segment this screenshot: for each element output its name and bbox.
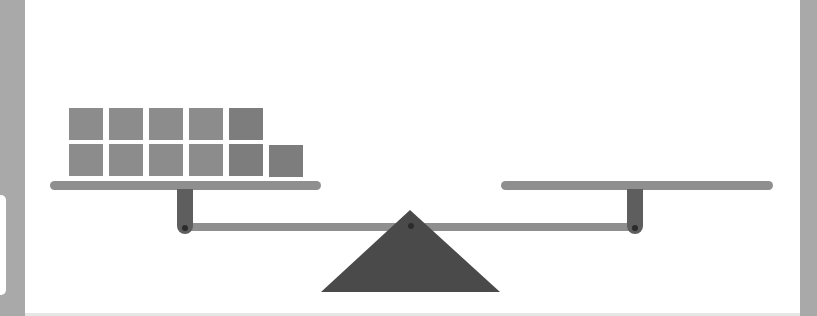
center-pivot-pin xyxy=(408,223,414,229)
fulcrum-triangle xyxy=(0,0,817,316)
